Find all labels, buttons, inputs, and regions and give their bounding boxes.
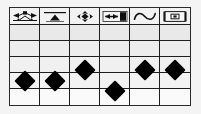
grid-cell: [40, 25, 70, 41]
grid-cell: [70, 89, 100, 105]
grid-cell: [40, 73, 70, 89]
grid-cell: [10, 89, 40, 105]
screenshot-root: [0, 0, 201, 114]
grid-cell: [40, 41, 70, 57]
triangle-under-bar-icon: [42, 10, 68, 23]
gradient-bar-icon: [102, 10, 128, 23]
grid-cell: [160, 25, 190, 41]
grid-cell: [160, 57, 190, 73]
icon-grid-chart: [9, 7, 191, 106]
grid-cell: [10, 25, 40, 41]
film-frame-icon: [162, 10, 188, 23]
grid-cell: [160, 89, 190, 105]
page-margin-left: [0, 0, 9, 114]
page-margin-bottom: [0, 106, 201, 114]
header-cell-col-4[interactable]: [100, 8, 130, 25]
bowtie-knot-icon: [12, 10, 38, 23]
grid-cell: [40, 89, 70, 105]
four-way-arrows-icon: [72, 10, 98, 23]
header-cell-col-6[interactable]: [160, 8, 190, 25]
grid-cell: [100, 41, 130, 57]
grid-cell: [10, 73, 40, 89]
grid-cell: [10, 41, 40, 57]
grid-cell: [10, 57, 40, 73]
grid-cell: [70, 57, 100, 73]
header-cell-col-5[interactable]: [130, 8, 160, 25]
grid-cell: [100, 57, 130, 73]
grid-cell: [40, 57, 70, 73]
grid-cell: [160, 73, 190, 89]
grid-cell: [130, 25, 160, 41]
header-cell-col-1[interactable]: [10, 8, 40, 25]
page-margin-right: [191, 0, 201, 114]
grid-cell: [70, 25, 100, 41]
grid-table: [10, 8, 190, 105]
grid-cell: [70, 41, 100, 57]
header-cell-col-2[interactable]: [40, 8, 70, 25]
grid-cell: [130, 41, 160, 57]
grid-cell: [70, 73, 100, 89]
grid-cell: [100, 25, 130, 41]
page-margin-top: [0, 0, 201, 7]
grid-cell: [160, 41, 190, 57]
sine-wave-icon: [132, 10, 158, 23]
grid-cell: [100, 73, 130, 89]
grid-cell: [100, 89, 130, 105]
grid-cell: [130, 89, 160, 105]
grid-cell: [130, 57, 160, 73]
grid-cell: [130, 73, 160, 89]
header-cell-col-3[interactable]: [70, 8, 100, 25]
